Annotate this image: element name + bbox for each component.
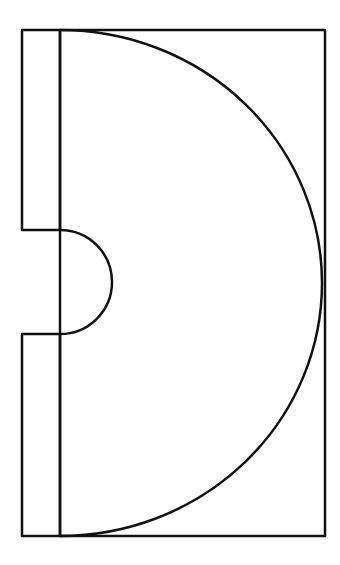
large-semicircle-arc xyxy=(60,30,322,536)
left-strip-bottom xyxy=(22,334,60,536)
left-strip-top xyxy=(22,30,60,230)
outer-rectangle xyxy=(60,30,325,536)
diagram-canvas xyxy=(0,0,340,565)
notch-semicircle-arc xyxy=(60,230,112,334)
diagram-svg xyxy=(0,0,340,565)
